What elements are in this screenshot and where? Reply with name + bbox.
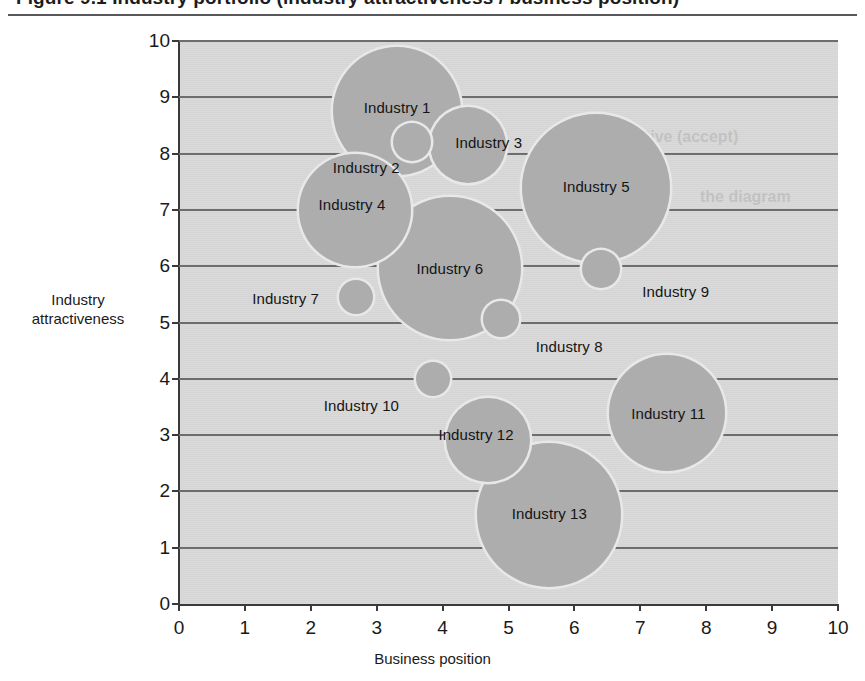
x-tick-mark-6: [573, 604, 575, 611]
y-axis-title-line-2: attractiveness: [14, 309, 142, 328]
bubble-label-industry-6: Industry 6: [416, 259, 483, 276]
bubble-industry-8[interactable]: [483, 301, 519, 337]
bubble-label-industry-9: Industry 9: [642, 283, 709, 300]
x-tick-mark-10: [837, 604, 839, 611]
y-tick-mark-6: [172, 265, 179, 267]
bubble-label-industry-8: Industry 8: [536, 337, 603, 354]
bubble-label-industry-3: Industry 3: [455, 133, 522, 150]
bubble-industry-9[interactable]: [582, 250, 620, 288]
bubble-label-industry-11: Industry 11: [631, 404, 705, 421]
x-axis-title: Business position: [0, 650, 865, 667]
x-tick-mark-4: [442, 604, 444, 611]
bubble-label-industry-2: Industry 2: [333, 159, 400, 176]
y-tick-label-0: 0: [138, 593, 170, 615]
figure-title-strip: Figure 9.1 Industry portfolio (industry …: [0, 0, 865, 14]
y-axis-line: [178, 41, 180, 606]
gridline-y-10: [179, 40, 838, 42]
x-tick-label-0: 0: [159, 617, 199, 639]
x-tick-label-6: 6: [554, 617, 594, 639]
y-axis-title-line-1: Industry: [14, 290, 142, 309]
y-tick-label-8: 8: [138, 143, 170, 165]
x-tick-mark-2: [310, 604, 312, 611]
y-tick-label-2: 2: [138, 480, 170, 502]
gridline-y-4: [179, 378, 838, 380]
bubble-label-industry-13: Industry 13: [512, 505, 587, 522]
y-tick-label-1: 1: [138, 537, 170, 559]
y-tick-label-7: 7: [138, 199, 170, 221]
bubble-label-industry-12: Industry 12: [438, 425, 513, 442]
y-tick-mark-7: [172, 209, 179, 211]
y-tick-mark-2: [172, 490, 179, 492]
bubble-label-industry-5: Industry 5: [563, 177, 630, 194]
y-tick-mark-5: [172, 322, 179, 324]
bubble-label-industry-7: Industry 7: [252, 290, 319, 307]
x-tick-label-5: 5: [489, 617, 529, 639]
y-tick-label-5: 5: [138, 312, 170, 334]
bubble-label-industry-10: Industry 10: [324, 396, 399, 413]
x-tick-label-1: 1: [225, 617, 265, 639]
x-tick-label-3: 3: [357, 617, 397, 639]
x-tick-label-2: 2: [291, 617, 331, 639]
x-tick-mark-1: [244, 604, 246, 611]
y-tick-mark-9: [172, 96, 179, 98]
y-tick-label-3: 3: [138, 424, 170, 446]
x-tick-mark-5: [508, 604, 510, 611]
x-tick-mark-7: [639, 604, 641, 611]
y-tick-label-4: 4: [138, 368, 170, 390]
y-tick-label-9: 9: [138, 86, 170, 108]
x-tick-mark-0: [178, 604, 180, 611]
x-tick-label-8: 8: [686, 617, 726, 639]
y-tick-mark-8: [172, 153, 179, 155]
figure-title: Figure 9.1 Industry portfolio (industry …: [16, 0, 679, 9]
x-tick-label-4: 4: [423, 617, 463, 639]
x-tick-mark-8: [705, 604, 707, 611]
gridline-y-9: [179, 96, 838, 98]
x-tick-label-7: 7: [620, 617, 660, 639]
y-tick-mark-3: [172, 434, 179, 436]
y-tick-mark-10: [172, 40, 179, 42]
x-tick-label-9: 9: [752, 617, 792, 639]
y-tick-label-10: 10: [138, 30, 170, 52]
bubble-industry-7[interactable]: [339, 280, 373, 314]
gridline-y-8: [179, 153, 838, 155]
x-tick-label-10: 10: [818, 617, 858, 639]
y-tick-mark-4: [172, 378, 179, 380]
y-tick-mark-1: [172, 547, 179, 549]
y-axis-title: Industry attractiveness: [14, 290, 142, 328]
x-tick-mark-9: [771, 604, 773, 611]
bubble-industry-10[interactable]: [416, 362, 450, 396]
title-divider: [8, 14, 857, 16]
y-tick-label-6: 6: [138, 255, 170, 277]
bubble-label-industry-4: Industry 4: [319, 195, 386, 212]
figure-bubble-chart: Figure 9.1 Industry portfolio (industry …: [0, 0, 865, 681]
bubble-label-industry-1: Industry 1: [364, 99, 431, 116]
x-tick-mark-3: [376, 604, 378, 611]
gridline-y-7: [179, 209, 838, 211]
